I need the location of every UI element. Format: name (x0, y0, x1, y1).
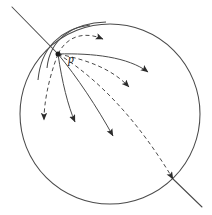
secondary-arc-near-p (38, 25, 90, 80)
ray-7-dashed-down-left (44, 54, 58, 120)
secant-line-lower-segment (171, 177, 202, 207)
ray-1-dashed-up-right (58, 35, 103, 54)
figure-canvas: p (0, 0, 212, 215)
geometry-figure: p (0, 0, 212, 215)
ray-4-dashed-long-down-right (58, 54, 173, 179)
point-p-marker (56, 52, 61, 57)
point-p-label: p (67, 52, 74, 66)
